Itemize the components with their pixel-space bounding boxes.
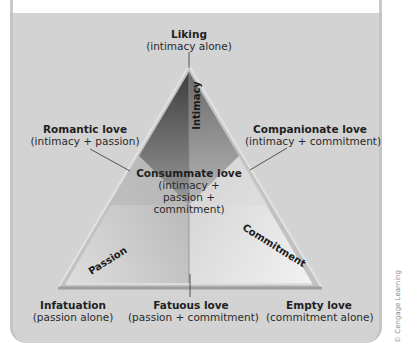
node-desc-3: commitment) xyxy=(134,203,244,215)
node-desc: (intimacy + xyxy=(134,179,244,191)
node-name: Romantic love xyxy=(30,123,140,135)
leader-companionate xyxy=(250,148,287,170)
node-companionate: Companionate love (intimacy + commitment… xyxy=(245,123,375,147)
node-desc-2: passion + xyxy=(134,191,244,203)
node-name: Infatuation xyxy=(28,299,118,311)
node-desc: (passion + commitment) xyxy=(128,311,254,323)
node-name: Consummate love xyxy=(134,167,244,179)
node-name: Fatuous love xyxy=(128,299,254,311)
side-label-intimacy: Intimacy xyxy=(191,81,202,130)
node-liking: Liking (intimacy alone) xyxy=(139,28,239,52)
node-desc: (intimacy alone) xyxy=(139,40,239,52)
node-empty: Empty love (commitment alone) xyxy=(266,299,372,323)
copyright-credit: © Cengage Learning xyxy=(394,270,402,343)
node-name: Liking xyxy=(139,28,239,40)
node-desc: (passion alone) xyxy=(28,311,118,323)
node-desc: (intimacy + commitment) xyxy=(245,135,375,147)
leader-romantic xyxy=(90,149,130,171)
node-fatuous: Fatuous love (passion + commitment) xyxy=(128,299,254,323)
node-desc: (intimacy + passion) xyxy=(30,135,140,147)
node-romantic: Romantic love (intimacy + passion) xyxy=(30,123,140,147)
node-name: Empty love xyxy=(266,299,372,311)
node-infatuation: Infatuation (passion alone) xyxy=(28,299,118,323)
node-desc: (commitment alone) xyxy=(266,311,372,323)
node-name: Companionate love xyxy=(245,123,375,135)
node-consummate: Consummate love (intimacy + passion + co… xyxy=(134,167,244,215)
